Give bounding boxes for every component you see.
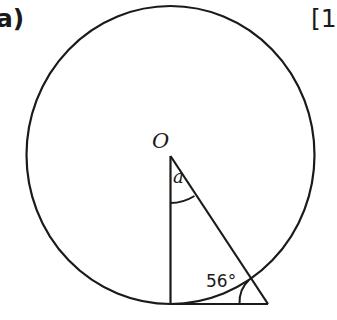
part-label: a) <box>0 4 24 33</box>
center-label: O <box>152 129 169 153</box>
unknown-angle-label: a <box>173 166 184 187</box>
angle-a-arc <box>171 196 195 203</box>
marks-label: [1 <box>311 4 337 33</box>
given-angle-label: 56° <box>206 271 236 291</box>
